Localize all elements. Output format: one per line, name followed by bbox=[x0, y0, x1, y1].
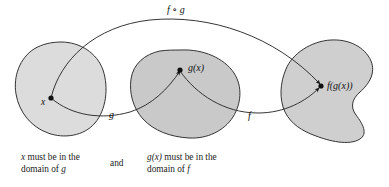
caption-left-line1: x must be in the bbox=[21, 152, 80, 164]
label-point-x: x bbox=[41, 97, 45, 107]
set-blob-domain-of-f bbox=[131, 50, 240, 138]
caption-left-text1: must be in the bbox=[25, 152, 80, 162]
caption-right: g(x) must be in the domain of f bbox=[147, 152, 217, 175]
caption-right-line2: domain of f bbox=[147, 164, 217, 176]
caption-left-text2: domain of bbox=[21, 164, 61, 174]
caption-right-line1: g(x) must be in the bbox=[147, 152, 217, 164]
label-f: f bbox=[248, 110, 251, 121]
function-composition-diagram: f ∘ g g f x g(x) f(g(x)) x must be in th… bbox=[0, 0, 389, 187]
point-g-of-x bbox=[177, 67, 182, 72]
label-point-g-of-x: g(x) bbox=[188, 62, 204, 73]
caption-right-var1: g(x) bbox=[147, 152, 162, 162]
set-blob-domain-of-g bbox=[15, 42, 106, 136]
caption-right-text2: domain of bbox=[147, 164, 187, 174]
caption-connector: and bbox=[110, 158, 123, 170]
label-g: g bbox=[109, 109, 114, 120]
label-point-f-of-g-of-x: f(g(x)) bbox=[327, 80, 353, 91]
label-f-compose-g: f ∘ g bbox=[167, 4, 185, 15]
point-f-of-g-of-x bbox=[318, 83, 323, 88]
caption-left-line2: domain of g bbox=[21, 164, 80, 176]
caption-left: x must be in the domain of g bbox=[21, 152, 80, 175]
point-x bbox=[48, 95, 53, 100]
caption-right-var2: f bbox=[187, 164, 190, 174]
caption-left-var2: g bbox=[61, 164, 66, 174]
caption-right-text1: must be in the bbox=[162, 152, 217, 162]
set-blob-range-of-f bbox=[281, 40, 373, 143]
